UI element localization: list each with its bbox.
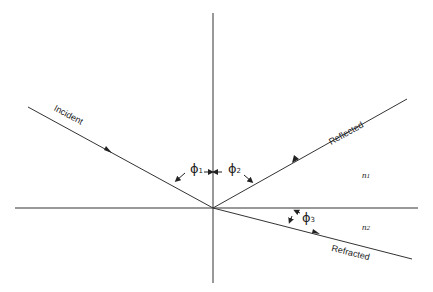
medium-n1-label: n1	[362, 170, 370, 180]
incident-arrow-icon	[104, 146, 112, 153]
medium-n2-label: n2	[362, 222, 370, 232]
angle-phi2-label: ϕ2	[228, 161, 241, 176]
reflected-ray	[213, 99, 407, 208]
diagram-canvas	[0, 0, 433, 292]
angle-phi1-label: ϕ1	[190, 161, 203, 176]
angle-phi3-label: ϕ3	[302, 210, 315, 225]
incident-ray	[28, 107, 213, 208]
